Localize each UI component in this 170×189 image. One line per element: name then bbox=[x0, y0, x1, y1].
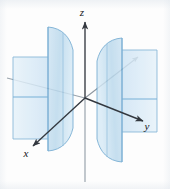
figure-container: z y x bbox=[0, 0, 170, 189]
axis-label-y: y bbox=[144, 120, 150, 132]
axis-label-z: z bbox=[79, 6, 85, 18]
left-curved-sheet bbox=[48, 27, 73, 151]
right-surface-group bbox=[97, 38, 157, 162]
left-surface-group bbox=[13, 27, 73, 151]
axis-label-x: x bbox=[23, 147, 29, 159]
surface-plot-svg: z y x bbox=[0, 0, 170, 189]
right-curved-sheet bbox=[97, 38, 122, 162]
